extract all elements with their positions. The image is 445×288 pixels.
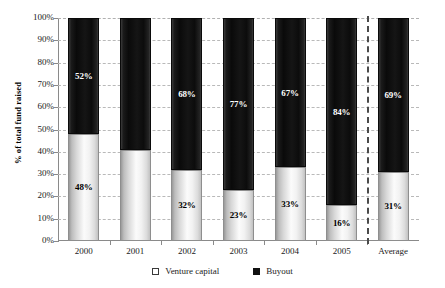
average-separator-line xyxy=(367,16,369,244)
y-axis-tick-mark xyxy=(54,241,58,242)
bar-column[interactable]: 32%68% xyxy=(171,18,202,241)
bar-value-label-venture-capital: 16% xyxy=(326,219,357,228)
chart-legend: Venture capital Buyout xyxy=(0,266,445,276)
x-axis-tick-label: Average xyxy=(367,246,419,256)
bar-column[interactable] xyxy=(120,18,151,241)
y-axis-tick-label: 100% xyxy=(20,13,54,22)
plot-area: 48%52%32%68%23%77%33%67%16%84%31%69% xyxy=(58,18,419,241)
bar-segment-venture-capital[interactable] xyxy=(120,150,151,241)
legend-label-buyout: Buyout xyxy=(266,266,293,276)
x-axis-tick-mark xyxy=(264,241,265,245)
x-axis-tick-mark xyxy=(161,241,162,245)
y-axis-tick-mark xyxy=(54,107,58,108)
legend-item-buyout[interactable]: Buyout xyxy=(253,266,293,276)
x-axis-tick-mark xyxy=(213,241,214,245)
x-axis-tick-mark xyxy=(110,241,111,245)
x-axis-tick-label: 2005 xyxy=(316,246,368,256)
y-axis-tick-labels: 100%90%80%70%60%50%40%30%20%10%0% xyxy=(18,0,54,288)
bar-column[interactable]: 16%84% xyxy=(326,18,357,241)
y-axis-tick-label: 60% xyxy=(20,102,54,111)
y-axis-tick-label: 20% xyxy=(20,191,54,200)
x-axis-tick-label: 2003 xyxy=(213,246,265,256)
y-axis-tick-label: 70% xyxy=(20,80,54,89)
bar-value-label-venture-capital: 48% xyxy=(68,183,99,192)
bar-column[interactable]: 31%69% xyxy=(378,18,409,241)
y-axis-tick-label: 30% xyxy=(20,169,54,178)
y-axis-tick-mark xyxy=(54,196,58,197)
bar-value-label-buyout: 84% xyxy=(326,108,357,117)
y-axis-tick-label: 10% xyxy=(20,214,54,223)
y-axis-tick-mark xyxy=(54,85,58,86)
y-axis-tick-mark xyxy=(54,219,58,220)
y-axis-tick-mark xyxy=(54,174,58,175)
stacked-bar-chart: % of total fund raised 100%90%80%70%60%5… xyxy=(0,0,445,288)
bar-value-label-buyout: 52% xyxy=(68,72,99,81)
open-square-swatch-icon xyxy=(152,268,159,275)
bar-column[interactable]: 48%52% xyxy=(68,18,99,241)
y-axis-tick-label: 50% xyxy=(20,125,54,134)
x-axis-tick-mark xyxy=(316,241,317,245)
bar-value-label-venture-capital: 31% xyxy=(378,202,409,211)
legend-label-venture-capital: Venture capital xyxy=(165,266,219,276)
y-axis-tick-mark xyxy=(54,130,58,131)
bar-value-label-venture-capital: 23% xyxy=(223,211,254,220)
bar-value-label-buyout: 67% xyxy=(275,89,306,98)
bar-value-label-venture-capital: 32% xyxy=(171,201,202,210)
bar-value-label-venture-capital: 33% xyxy=(275,200,306,209)
y-axis-tick-mark xyxy=(54,63,58,64)
y-axis-tick-label: 80% xyxy=(20,58,54,67)
x-axis-tick-label: 2000 xyxy=(58,246,110,256)
x-axis-tick-label: 2004 xyxy=(264,246,316,256)
bar-value-label-buyout: 68% xyxy=(171,90,202,99)
y-axis-tick-mark xyxy=(54,152,58,153)
y-axis-tick-mark xyxy=(54,18,58,19)
bar-segment-buyout[interactable] xyxy=(120,18,151,150)
bar-value-label-buyout: 69% xyxy=(378,91,409,100)
legend-item-venture-capital[interactable]: Venture capital xyxy=(152,266,219,276)
y-axis-tick-mark xyxy=(54,40,58,41)
y-axis-tick-label: 40% xyxy=(20,147,54,156)
y-axis-tick-label: 90% xyxy=(20,35,54,44)
bar-column[interactable]: 33%67% xyxy=(275,18,306,241)
y-axis-tick-label: 0% xyxy=(20,236,54,245)
bar-value-label-buyout: 77% xyxy=(223,100,254,109)
bar-column[interactable]: 23%77% xyxy=(223,18,254,241)
x-axis-tick-label: 2002 xyxy=(161,246,213,256)
filled-square-swatch-icon xyxy=(253,268,260,275)
x-axis-tick-label: 2001 xyxy=(110,246,162,256)
